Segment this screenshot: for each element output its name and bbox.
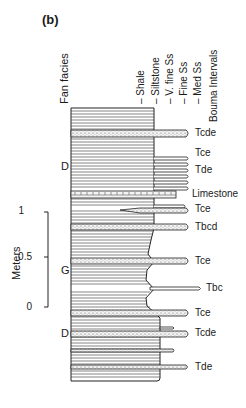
bed-label-tcde-1: Tcde — [195, 127, 216, 138]
bed-label-tce-4: Tce — [195, 307, 211, 318]
thin-beds-upper — [154, 157, 188, 208]
bed-label-tde-2: Tde — [195, 361, 212, 372]
scale-bar — [44, 212, 48, 307]
bed-label-tbcd: Tbcd — [195, 221, 217, 232]
bed-label-limestone: Limestone — [192, 188, 238, 199]
bed-label-tce-2: Tce — [195, 203, 211, 214]
bed-label-tce-3: Tce — [195, 255, 211, 266]
bed-label-tcde-2: Tcde — [195, 327, 216, 338]
bed-label-tde-1: Tde — [195, 164, 212, 175]
bed-label-tce-1: Tce — [195, 147, 211, 158]
bed-label-tbc: Tbc — [206, 282, 223, 293]
